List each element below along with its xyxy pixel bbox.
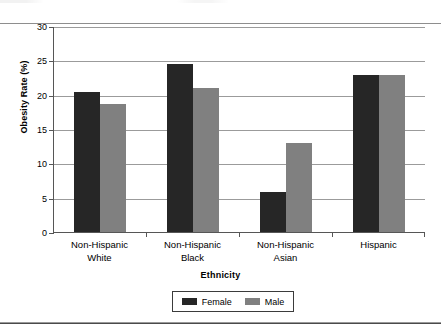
y-tick-mark xyxy=(49,96,54,97)
x-tick-mark xyxy=(239,232,240,237)
y-tick-mark xyxy=(49,233,54,234)
y-tick-label: 30 xyxy=(21,22,47,32)
x-category-label-line: Non-Hispanic xyxy=(50,239,150,252)
y-tick-label: 15 xyxy=(21,125,47,135)
y-tick-mark xyxy=(49,199,54,200)
plot-area: 051015202530 xyxy=(53,27,425,233)
chart-figure: Obesity Rate (%) 051015202530 Non-Hispan… xyxy=(0,0,441,333)
x-axis-title: Ethnicity xyxy=(0,270,441,280)
legend-entry-male: Male xyxy=(245,297,285,307)
y-tick-mark xyxy=(49,164,54,165)
gridline xyxy=(53,61,425,62)
x-category-label-line: Non-Hispanic xyxy=(143,239,243,252)
bar-female-3 xyxy=(260,192,286,232)
scan-artifact xyxy=(0,0,441,3)
y-tick-label: 5 xyxy=(21,194,47,204)
bar-female-2 xyxy=(167,64,193,232)
bar-male-2 xyxy=(193,88,219,232)
y-tick-label: 25 xyxy=(21,56,47,66)
x-category-label-line: Hispanic xyxy=(329,239,429,252)
x-category-label-2: Non-HispanicBlack xyxy=(143,239,243,264)
chart-legend: Female Male xyxy=(172,291,294,312)
y-tick-label: 10 xyxy=(21,159,47,169)
bar-male-4 xyxy=(379,75,405,232)
page-divider-rule xyxy=(0,322,441,324)
legend-swatch-female-icon xyxy=(182,298,197,305)
x-category-label-line: Black xyxy=(143,252,243,265)
legend-label-female: Female xyxy=(202,297,232,307)
y-tick-mark xyxy=(49,61,54,62)
y-tick-mark xyxy=(49,27,54,28)
scan-artifact-rule xyxy=(0,23,441,24)
legend-label-male: Male xyxy=(265,297,285,307)
bar-female-1 xyxy=(74,92,100,232)
bar-female-4 xyxy=(353,75,379,232)
y-tick-label: 20 xyxy=(21,91,47,101)
y-tick-label: 0 xyxy=(21,228,47,238)
x-category-label-3: Non-HispanicAsian xyxy=(236,239,336,264)
x-category-label-4: Hispanic xyxy=(329,239,429,252)
bar-male-1 xyxy=(100,104,126,232)
y-tick-mark xyxy=(49,130,54,131)
x-tick-mark xyxy=(424,232,425,237)
bar-male-3 xyxy=(286,143,312,232)
legend-swatch-male-icon xyxy=(245,298,260,305)
gridline xyxy=(53,27,425,28)
x-category-label-1: Non-HispanicWhite xyxy=(50,239,150,264)
x-category-label-line: Asian xyxy=(236,252,336,265)
x-category-label-line: Non-Hispanic xyxy=(236,239,336,252)
x-category-label-line: White xyxy=(50,252,150,265)
x-tick-mark xyxy=(146,232,147,237)
legend-entry-female: Female xyxy=(182,297,232,307)
x-tick-mark xyxy=(332,232,333,237)
